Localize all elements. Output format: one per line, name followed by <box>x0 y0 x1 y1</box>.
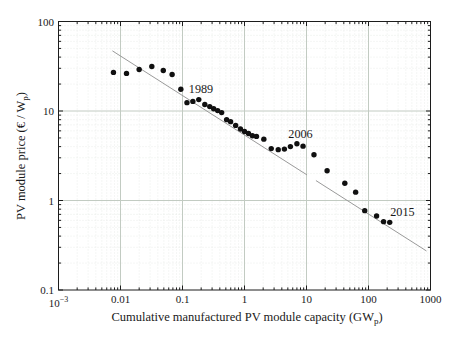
annotation-2015: 2015 <box>390 205 414 219</box>
x-tick-label: 0.1 <box>176 293 190 305</box>
x-tick-label: 10 <box>301 293 313 305</box>
x-tick-labels: 10−30.010.11101001000 <box>49 293 442 309</box>
annotation-1989: 1989 <box>189 82 213 96</box>
y-tick-label: 1 <box>49 195 55 207</box>
data-point <box>169 72 174 77</box>
data-point <box>233 123 238 128</box>
x-tick-label: 10−3 <box>49 295 69 309</box>
data-point <box>178 87 183 92</box>
data-point <box>294 141 299 146</box>
pv-price-learning-curve-figure: 10−30.010.11101001000 0.1110100 19892006… <box>0 0 459 338</box>
data-point <box>261 136 266 141</box>
data-point <box>288 144 293 149</box>
data-point <box>190 99 195 104</box>
data-point <box>124 71 129 76</box>
data-point <box>282 146 287 151</box>
data-point <box>184 100 189 105</box>
data-point <box>353 189 358 194</box>
x-tick-label: 0.01 <box>111 293 130 305</box>
data-point <box>196 97 201 102</box>
data-point <box>269 146 274 151</box>
y-axis-title: PV module price (€ / Wp) <box>14 92 30 220</box>
y-tick-label: 0.1 <box>40 284 54 296</box>
x-axis-title: Cumulative manufactured PV module capaci… <box>111 310 382 326</box>
trend-line <box>112 51 426 251</box>
data-point <box>228 119 233 124</box>
data-point <box>324 168 329 173</box>
data-point <box>219 110 224 115</box>
data-point <box>381 219 386 224</box>
scatter-chart: 10−30.010.11101001000 0.1110100 19892006… <box>0 0 459 338</box>
annotation-2006: 2006 <box>288 127 312 141</box>
x-tick-label: 1 <box>242 293 248 305</box>
data-point <box>149 64 154 69</box>
data-point <box>111 70 116 75</box>
data-point <box>300 143 305 148</box>
y-tick-labels: 0.1110100 <box>38 16 55 297</box>
y-tick-label: 100 <box>38 16 55 28</box>
data-point <box>202 102 207 107</box>
data-point <box>254 134 259 139</box>
x-tick-label: 1000 <box>420 293 443 305</box>
data-point <box>136 67 141 72</box>
x-tick-label: 100 <box>360 293 377 305</box>
y-tick-label: 10 <box>43 105 55 117</box>
data-point <box>374 213 379 218</box>
year-annotations: 198920062015 <box>189 82 415 219</box>
data-point <box>161 68 166 73</box>
data-point <box>311 152 316 157</box>
data-point <box>342 181 347 186</box>
data-point <box>276 147 281 152</box>
data-point <box>387 220 392 225</box>
data-point <box>362 208 367 213</box>
